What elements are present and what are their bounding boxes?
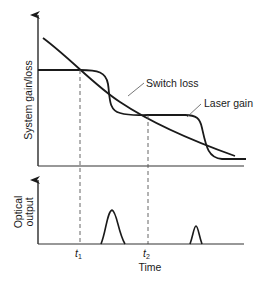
switch-loss-leader: [128, 83, 144, 96]
laser-gain-label: Laser gain: [204, 97, 253, 109]
top-panel: Switch loss Laser gain System gain/loss: [22, 15, 253, 166]
bottom-y-axis-label-line2: output: [23, 197, 35, 226]
t2-label: t2: [143, 247, 150, 260]
t1-label: t1: [75, 247, 82, 260]
q-switch-diagram: Switch loss Laser gain System gain/loss …: [0, 0, 257, 285]
x-axis-label: Time: [139, 261, 162, 273]
laser-gain-leader: [187, 104, 201, 117]
bottom-panel: Optical output: [12, 180, 244, 244]
switch-loss-label: Switch loss: [146, 77, 199, 89]
optical-pulse-2: [190, 226, 202, 244]
optical-pulse-1: [101, 210, 125, 244]
top-y-axis-label: System gain/loss: [22, 60, 34, 139]
laser-gain-curve: [38, 70, 246, 159]
